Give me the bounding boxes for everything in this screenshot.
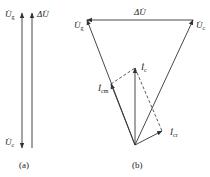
panel-b-vectors [87,20,193,145]
label-ug-b: U̇g [74,21,84,33]
caption-a: (a) [19,160,29,170]
label-uc-a: U̇c [5,138,14,150]
label-ic: İc [141,63,147,75]
caption-b: (b) [132,160,143,170]
label-icr: İcr [170,128,178,140]
label-delta-u-a: ΔU̇ [37,10,49,19]
uc-vector-b [135,20,193,145]
label-icm: İcm [98,84,108,96]
label-ug-a: U̇g [5,10,15,22]
dashed-ic-to-icr [135,68,162,131]
icm-vector [111,84,135,145]
label-uc-b: U̇c [196,21,205,33]
panel-a-vectors [22,13,32,148]
icr-vector [135,131,162,145]
dashed-icm-to-ic [111,68,135,84]
label-delta-u-b: ΔU̇ [134,8,146,17]
